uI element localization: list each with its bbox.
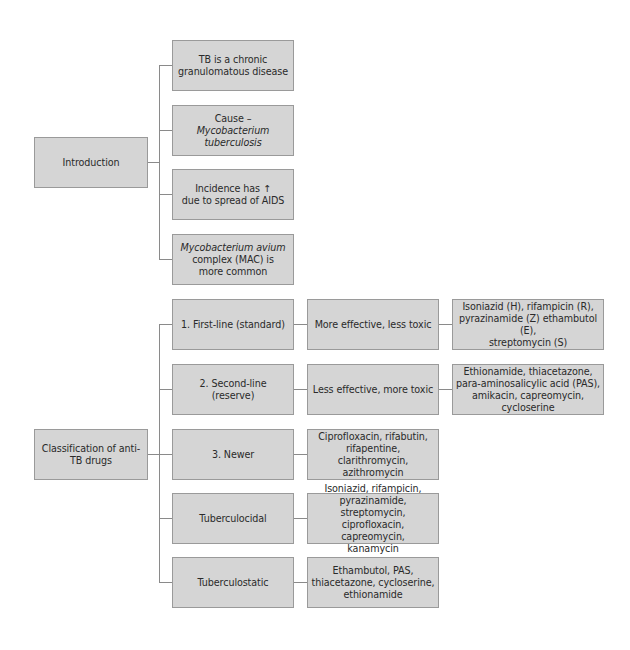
connector-class-1 [159, 324, 172, 325]
connector-class-5 [159, 582, 172, 583]
connector-intro-3 [159, 194, 172, 195]
connector-intro-4 [159, 259, 172, 260]
class-label: 1. First-line (standard) [181, 319, 285, 331]
class-label: Tuberculocidal [199, 513, 266, 525]
class-drugs: Isoniazid, rifampicin, pyrazinamide, str… [309, 483, 437, 555]
intro-item-mac: Mycobacterium avium complex (MAC) is mor… [172, 234, 294, 285]
flowchart: Introduction TB is a chronic granulomato… [0, 0, 630, 650]
intro-item-text: Cause – Mycobacterium tuberculosis [177, 113, 289, 149]
class-description: Less effective, more toxic [313, 384, 433, 396]
connector-second-line-desc [294, 389, 307, 390]
connector-tuberculocidal-drugs [294, 518, 307, 519]
connector-tuberculostatic-drugs [294, 582, 307, 583]
intro-item-chronic-disease: TB is a chronic granulomatous disease [172, 40, 294, 91]
connector-intro-2 [159, 130, 172, 131]
intro-cause-organism: Mycobacterium tuberculosis [197, 125, 270, 148]
class-second-line: 2. Second-line (reserve) [172, 364, 294, 415]
introduction-label: Introduction [63, 157, 120, 169]
connector-second-line-drugs [439, 389, 452, 390]
first-line-drugs: Isoniazid (H), rifampicin (R), pyrazinam… [452, 299, 604, 350]
connector-class-2 [159, 389, 172, 390]
connector-newer-drugs [294, 454, 307, 455]
class-tuberculocidal: Tuberculocidal [172, 493, 294, 544]
classification-label: Classification of anti- TB drugs [42, 443, 140, 467]
intro-cause-prefix: Cause – [215, 113, 252, 124]
intro-item-text: TB is a chronic granulomatous disease [178, 54, 288, 78]
tuberculostatic-drugs: Ethambutol, PAS, thiacetazone, cycloseri… [307, 557, 439, 608]
class-drugs: Isoniazid (H), rifampicin (R), pyrazinam… [455, 301, 601, 349]
connector-intro-trunk [148, 162, 159, 163]
second-line-description: Less effective, more toxic [307, 364, 439, 415]
intro-item-incidence: Incidence has ↑ due to spread of AIDS [172, 169, 294, 220]
class-first-line: 1. First-line (standard) [172, 299, 294, 350]
connector-first-line-drugs [439, 324, 452, 325]
connector-class-4 [159, 518, 172, 519]
class-drugs: Ethionamide, thiacetazone, para-aminosal… [456, 366, 600, 414]
intro-mac-organism: Mycobacterium avium [181, 242, 286, 254]
second-line-drugs: Ethionamide, thiacetazone, para-aminosal… [452, 364, 604, 415]
connector-first-line-desc [294, 324, 307, 325]
classification-node: Classification of anti- TB drugs [34, 429, 148, 480]
tuberculocidal-drugs: Isoniazid, rifampicin, pyrazinamide, str… [307, 493, 439, 544]
class-description: More effective, less toxic [315, 319, 432, 331]
connector-intro-vertical [159, 65, 160, 260]
class-tuberculostatic: Tuberculostatic [172, 557, 294, 608]
class-drugs: Ciprofloxacin, rifabutin, rifapentine, c… [310, 431, 436, 479]
introduction-node: Introduction [34, 137, 148, 188]
class-label: Tuberculostatic [198, 577, 269, 589]
connector-class-trunk [148, 454, 159, 455]
intro-item-cause: Cause – Mycobacterium tuberculosis [172, 105, 294, 156]
class-label: 2. Second-line (reserve) [177, 378, 289, 402]
intro-item-text: Incidence has ↑ due to spread of AIDS [182, 183, 285, 207]
newer-drugs: Ciprofloxacin, rifabutin, rifapentine, c… [307, 429, 439, 480]
first-line-description: More effective, less toxic [307, 299, 439, 350]
connector-class-3 [159, 454, 172, 455]
intro-mac-suffix: complex (MAC) is more common [192, 254, 274, 278]
class-label: 3. Newer [212, 449, 254, 461]
class-newer: 3. Newer [172, 429, 294, 480]
class-drugs: Ethambutol, PAS, thiacetazone, cycloseri… [312, 565, 435, 601]
connector-intro-1 [159, 65, 172, 66]
